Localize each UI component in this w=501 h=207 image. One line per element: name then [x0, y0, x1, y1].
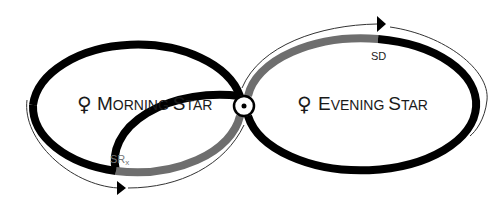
morning-venus-icon: ♀: [77, 92, 92, 116]
station-retrograde-marker: SRx: [110, 153, 129, 167]
morning-star-label: MORNING STAR: [97, 93, 212, 114]
station-direct-marker: SD: [371, 50, 386, 62]
evening-star-label: EVENING STAR: [318, 93, 428, 114]
evening-loop-retrograde: [248, 38, 378, 96]
morning-loop-direct-left: [33, 105, 116, 171]
arrow-right-icon: [377, 16, 386, 32]
evening-venus-icon: ♀: [297, 92, 312, 116]
sun-icon-dot: [242, 104, 247, 109]
arrow-right-icon: [117, 181, 126, 195]
venus-cycle-diagram: ♀ MORNING STAR ♀ EVENING STAR SRx SD: [0, 0, 501, 207]
retrograde-motion-arc-right: [242, 24, 377, 88]
